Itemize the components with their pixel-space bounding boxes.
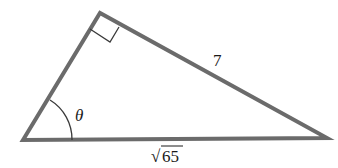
triangle-diagram: θ 7 √ 65 xyxy=(0,0,338,168)
angle-label-theta: θ xyxy=(75,106,83,125)
base-label-sqrt65: 65 xyxy=(162,147,179,166)
angle-arc xyxy=(50,100,72,140)
right-angle-marker xyxy=(90,27,119,42)
sqrt-symbol: √ xyxy=(151,147,161,166)
side-label-seven: 7 xyxy=(213,51,222,70)
